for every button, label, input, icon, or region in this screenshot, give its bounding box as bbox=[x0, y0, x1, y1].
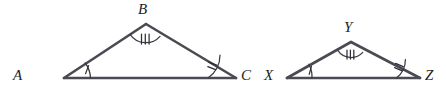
angle-mark-x bbox=[309, 64, 312, 78]
vertex-label-y: Y bbox=[344, 20, 352, 35]
angle-tick-c-2 bbox=[208, 67, 216, 70]
vertex-label-x: X bbox=[264, 68, 273, 83]
side-bc bbox=[146, 24, 236, 78]
vertex-label-b: B bbox=[138, 2, 147, 17]
side-ab bbox=[64, 24, 146, 78]
triangle-abc bbox=[64, 24, 236, 78]
vertex-label-z: Z bbox=[425, 68, 433, 83]
angle-mark-y bbox=[338, 50, 363, 59]
angle-arc-c bbox=[208, 55, 220, 78]
angle-mark-c bbox=[208, 55, 220, 78]
angle-mark-a bbox=[85, 63, 90, 78]
vertex-label-a: A bbox=[13, 68, 22, 83]
figure-canvas bbox=[0, 0, 446, 93]
triangle-xyz bbox=[287, 42, 420, 78]
angle-mark-b bbox=[130, 34, 160, 44]
geometry-figure: A B C X Y Z bbox=[0, 0, 446, 93]
side-xy bbox=[287, 42, 351, 78]
angle-arc-a bbox=[85, 63, 90, 78]
vertex-label-c: C bbox=[241, 68, 251, 83]
side-yz bbox=[351, 42, 420, 78]
